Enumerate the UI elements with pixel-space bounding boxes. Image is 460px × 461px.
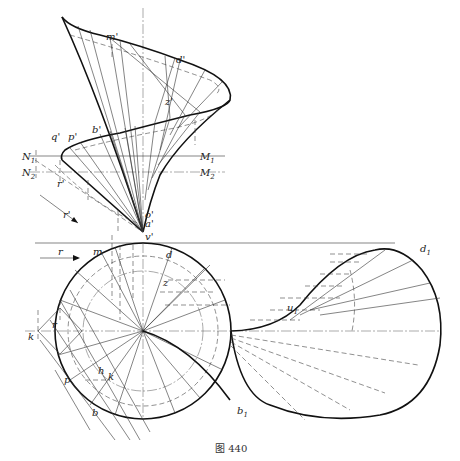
helix-inner-edge xyxy=(143,100,230,232)
label-k: k xyxy=(108,371,114,382)
label-b-prime: b' xyxy=(92,124,101,135)
projection-arrow-front xyxy=(40,195,78,223)
label-m2: M2 xyxy=(199,167,215,181)
label-v-prime: v' xyxy=(145,231,153,242)
label-m-prime: m' xyxy=(106,31,118,42)
label-n2: N2 xyxy=(21,167,36,181)
arrowhead-icon xyxy=(71,217,78,223)
label-k-left: k xyxy=(28,331,34,342)
label-b1: b1 xyxy=(237,405,248,419)
label-z: z xyxy=(162,277,169,288)
radial-lines xyxy=(40,247,225,440)
figure-caption: 图 440 xyxy=(215,443,247,454)
label-m1: M1 xyxy=(199,151,215,165)
label-a-prime: a' xyxy=(145,218,154,229)
label-d: d xyxy=(166,249,172,260)
label-d1: d1 xyxy=(420,243,431,257)
label-r-prime: r' xyxy=(57,178,65,189)
development-outline xyxy=(231,249,441,418)
arrowhead-icon xyxy=(73,255,80,261)
label-b: b xyxy=(92,407,98,418)
development-rulings xyxy=(290,250,440,320)
label-p-prime: p' xyxy=(68,131,77,142)
label-m: m xyxy=(93,246,102,257)
label-r-prime-arrow: r' xyxy=(63,209,71,220)
label-p: p xyxy=(64,374,71,385)
label-r-arrow: r xyxy=(58,246,64,257)
front-view: m' d' z' b' q' p' r' r' N1 N2 M1 M2 o' a… xyxy=(21,8,230,242)
label-n1: N1 xyxy=(21,151,35,165)
label-r: r xyxy=(52,319,58,330)
label-d-prime: d' xyxy=(176,54,185,65)
label-q-prime: q' xyxy=(51,131,60,142)
helix-upper-curve xyxy=(61,17,230,160)
technical-drawing: m' d' z' b' q' p' r' r' N1 N2 M1 M2 o' a… xyxy=(0,0,460,461)
label-h: h xyxy=(98,365,104,376)
development-view: d1 u1 b1 xyxy=(231,243,441,420)
label-z-prime: z' xyxy=(164,96,173,107)
helix-left-edge xyxy=(62,17,143,232)
